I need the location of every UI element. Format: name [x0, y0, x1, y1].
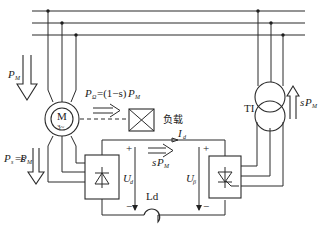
- three-phase-bus: [32, 11, 305, 35]
- svg-text:P: P: [19, 152, 27, 164]
- diode-rectifier: [85, 155, 119, 199]
- svg-text:P: P: [3, 152, 11, 164]
- svg-text:=(1−s): =(1−s): [97, 87, 127, 100]
- svg-text:M: M: [134, 94, 141, 100]
- input-power-arrow: P M: [7, 55, 37, 100]
- svg-text:s: s: [300, 96, 304, 108]
- svg-text:M: M: [163, 163, 170, 169]
- motor-letter: M: [57, 110, 67, 122]
- svg-text:d: d: [183, 134, 187, 140]
- svg-text:Ld: Ld: [146, 190, 159, 202]
- inverter-transformer-leads: [241, 122, 283, 186]
- rotor-leads: [48, 136, 85, 182]
- svg-text:+: +: [203, 142, 209, 154]
- mech-output-arrow: [93, 104, 120, 117]
- slip-power-arrow: P s =s P M: [3, 148, 44, 184]
- svg-text:d: d: [130, 179, 134, 185]
- svg-text:M: M: [311, 103, 318, 109]
- feedback-power-arrow: s P M: [148, 144, 173, 169]
- motor: M 3~: [45, 102, 79, 136]
- svg-text:+: +: [126, 142, 132, 154]
- smoothing-inductor: Ld: [144, 190, 160, 222]
- svg-text:P: P: [127, 87, 135, 99]
- load-box: 负载: [129, 109, 183, 131]
- svg-text:s: s: [152, 156, 156, 168]
- svg-text:P: P: [7, 68, 15, 80]
- svg-text:β: β: [192, 179, 196, 185]
- svg-text:P: P: [84, 87, 92, 99]
- thyristor-inverter: [209, 156, 241, 198]
- slip-power-recovery-diagram: M 3~ P M P Ω =(1−s) P M 负载 P s =s P: [0, 0, 319, 235]
- mech-output-label: P Ω =(1−s) P M: [84, 87, 141, 100]
- inverter-transformer: TI: [244, 9, 285, 131]
- motor-phase: 3~: [57, 123, 65, 131]
- transformer-power-arrow: s P M: [287, 86, 318, 119]
- svg-text:TI: TI: [244, 102, 255, 114]
- svg-text:M: M: [26, 159, 33, 165]
- svg-text:s: s: [11, 159, 14, 165]
- svg-text:P: P: [156, 156, 164, 168]
- rectifier-voltage: + − U d: [123, 142, 138, 212]
- svg-text:−: −: [203, 200, 209, 212]
- inverter-voltage: + − U β: [186, 142, 209, 212]
- svg-text:M: M: [14, 75, 21, 81]
- svg-text:P: P: [304, 96, 312, 108]
- load-label: 负载: [163, 113, 183, 125]
- svg-text:−: −: [126, 200, 132, 212]
